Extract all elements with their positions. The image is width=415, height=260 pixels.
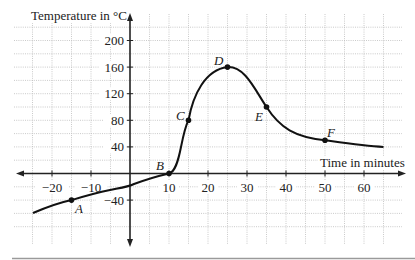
y-tick-label: 160 — [105, 60, 125, 75]
y-axis-title: Temperature in °C — [31, 8, 127, 23]
y-tick-label: 200 — [105, 33, 125, 48]
x-tick-label: 20 — [202, 180, 215, 195]
x-tick-label: 60 — [358, 180, 371, 195]
point-a-label: A — [74, 201, 83, 216]
x-axis-arrow-right-icon — [398, 171, 406, 177]
y-tick-label: 40 — [111, 139, 124, 154]
grid — [14, 14, 402, 245]
x-tick-label: −20 — [42, 180, 62, 195]
point-c-label: C — [176, 108, 185, 123]
y-tick-label: 120 — [105, 86, 125, 101]
x-tick-label: 30 — [241, 180, 254, 195]
point-b-marker — [166, 171, 172, 177]
point-e-marker — [264, 104, 270, 110]
point-d-marker — [225, 64, 231, 70]
point-e-label: E — [254, 109, 263, 124]
y-tick-label: 80 — [111, 113, 124, 128]
x-tick-label: 50 — [319, 180, 332, 195]
x-tick-labels: −20 −10 10 20 30 40 50 60 — [36, 180, 374, 195]
y-tick-label: −40 — [104, 193, 124, 208]
point-d-label: D — [213, 53, 224, 68]
temperature-chart: −20 −10 10 20 30 40 50 60 200 160 120 80… — [0, 0, 415, 260]
point-a-marker — [69, 197, 75, 203]
y-axis-arrow-down-icon — [127, 239, 133, 247]
point-c-marker — [186, 118, 192, 124]
point-b-label: B — [156, 158, 164, 173]
x-tick-label: 40 — [280, 180, 293, 195]
x-tick-label: 10 — [163, 180, 176, 195]
point-f-label: F — [326, 125, 336, 140]
x-axis-arrow-left-icon — [16, 171, 24, 177]
y-axis-arrow-up-icon — [127, 13, 133, 21]
x-axis-title: Time in minutes — [320, 155, 405, 170]
